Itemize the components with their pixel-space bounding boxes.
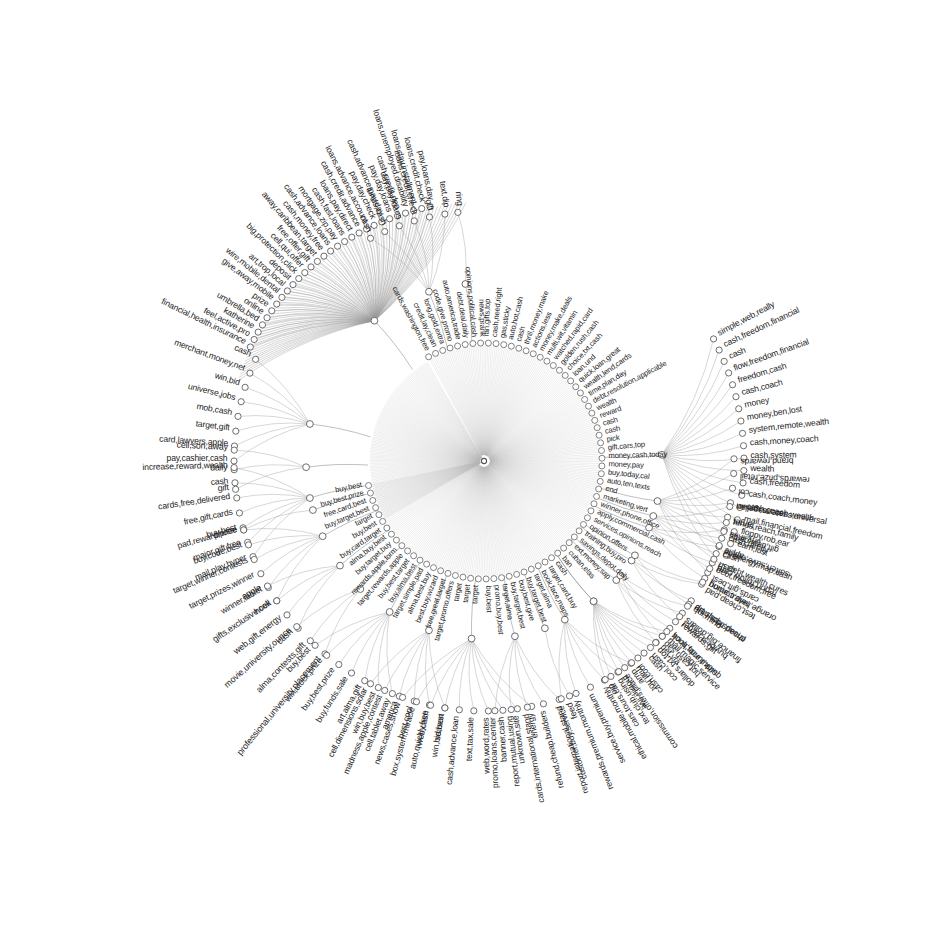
leaf-label: season — [432, 713, 446, 741]
cluster-node — [310, 507, 317, 514]
leaf-node — [442, 705, 448, 711]
leaf-node — [396, 223, 402, 229]
inner-ring-node — [384, 525, 390, 531]
inner-ring-node — [493, 341, 499, 347]
root-node — [481, 458, 486, 463]
leaf-node — [731, 456, 737, 462]
inner-ring-node — [577, 390, 583, 396]
hub-spoke — [488, 379, 565, 457]
inner-ring-node — [433, 350, 439, 356]
leaf-node — [428, 702, 434, 708]
leaf-node — [367, 235, 373, 241]
cluster-node — [632, 552, 639, 559]
leaf-node — [558, 696, 564, 702]
tree-edge — [385, 630, 429, 690]
leaf-node — [232, 480, 238, 486]
leaf-node — [321, 253, 327, 259]
leaf-node — [235, 413, 241, 419]
leaf-node — [514, 706, 520, 712]
tree-edge — [310, 589, 360, 641]
tree-edge — [425, 630, 429, 705]
leaf-node — [274, 598, 280, 604]
leaf-node — [485, 708, 491, 714]
leaf-node — [733, 394, 739, 400]
leaf-node — [334, 243, 340, 249]
inner-ring-node — [508, 343, 514, 349]
inner-ring-node — [468, 575, 474, 581]
leaf-node — [233, 486, 239, 492]
tree-edge — [657, 501, 730, 506]
leaf-node — [411, 218, 417, 224]
labels-layer: cards,washington,freecredit,lay,cleanlon… — [142, 108, 829, 803]
dendrogram-canvas: cards,washington,freecredit,lay,cleanlon… — [0, 0, 951, 934]
tree-edge — [565, 620, 576, 694]
leaf-node — [362, 678, 368, 684]
leaf-node — [508, 706, 514, 712]
leaf-label: target,gift — [195, 418, 231, 432]
inner-ring-node — [367, 490, 373, 496]
leaf-node — [622, 665, 628, 671]
leaf-label: text,tax,sale — [464, 717, 476, 762]
leaf-node — [284, 288, 290, 294]
leaf-label: wealth — [749, 463, 775, 474]
leaf-node — [602, 677, 608, 683]
inner-ring-node — [596, 486, 602, 492]
leaf-node — [608, 673, 614, 679]
tree-edge — [469, 639, 474, 711]
inner-ring-node — [485, 340, 491, 346]
leaf-node — [253, 356, 259, 362]
inner-ring-node — [592, 417, 598, 423]
leaf-label: buy,best — [484, 585, 494, 613]
hub-spoke — [489, 464, 583, 519]
leaf-node — [635, 655, 641, 661]
inner-ring-node — [597, 478, 603, 484]
leaf-node — [294, 624, 300, 630]
tree-edge — [635, 555, 703, 582]
inner-ring-node — [584, 515, 590, 521]
inner-ring-node — [405, 548, 411, 554]
leaf-node — [312, 642, 318, 648]
leaf-node — [719, 535, 725, 541]
inner-ring-node — [475, 576, 481, 582]
leaf-node — [375, 684, 381, 690]
tree-edge — [565, 620, 618, 672]
tree-edge — [306, 464, 368, 467]
inner-ring-node — [514, 571, 520, 577]
inner-ring-node — [555, 550, 561, 556]
leaf-node — [566, 693, 572, 699]
tree-edge — [387, 612, 393, 694]
inner-ring-node — [499, 575, 505, 581]
leaf-node — [729, 382, 735, 388]
inner-ring-node — [537, 354, 543, 360]
leaf-node — [242, 384, 248, 390]
inner-ring-node — [571, 534, 577, 540]
leaf-label: money — [743, 394, 770, 409]
cluster-node — [371, 317, 378, 324]
inner-ring-node — [568, 378, 574, 384]
inner-ring-node — [440, 347, 446, 353]
leaf-label: money,cash,today — [608, 450, 667, 460]
leaf-node — [540, 701, 546, 707]
tree-edge — [248, 321, 374, 355]
tree-edge — [261, 536, 323, 573]
leaf-node — [721, 358, 727, 364]
inner-ring-node — [594, 493, 600, 499]
inner-ring-node — [521, 569, 527, 575]
leaf-node — [400, 694, 406, 700]
tree-edge — [515, 636, 528, 707]
leaf-node — [231, 447, 237, 453]
tree-edge — [620, 575, 675, 621]
inner-ring-node — [596, 432, 602, 438]
inner-ring-node — [460, 574, 466, 580]
leaf-node — [442, 211, 448, 217]
inner-ring-node — [523, 348, 529, 354]
inner-ring-node — [393, 537, 399, 543]
tree-edge — [495, 636, 515, 710]
leaf-node — [341, 238, 347, 244]
leaf-node — [348, 670, 354, 676]
tree-edge — [616, 580, 682, 613]
tree-edge — [244, 528, 323, 536]
inner-ring-node — [530, 351, 536, 357]
tree-edge — [254, 536, 322, 559]
tree-edge — [238, 416, 310, 424]
